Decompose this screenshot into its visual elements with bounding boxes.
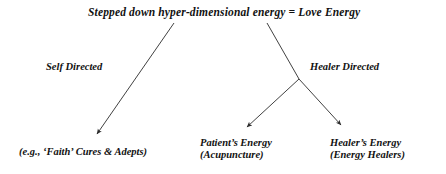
leaf-node-faith-cures: (e.g., ‘Faith’ Cures & Adepts) — [19, 146, 147, 158]
diagram-title: Stepped down hyper-dimensional energy = … — [88, 6, 360, 20]
leaf-faith-line1: (e.g., ‘Faith’ Cures & Adepts) — [19, 146, 147, 158]
energy-flow-diagram: Stepped down hyper-dimensional energy = … — [0, 0, 446, 174]
leaf-healer-line1: Healer’s Energy — [330, 137, 405, 149]
arrow-branch-to-healer — [299, 79, 341, 125]
leaf-healer-line2: (Energy Healers) — [330, 149, 405, 161]
leaf-node-patients-energy: Patient’s Energy (Acupuncture) — [200, 137, 272, 162]
arrow-title-to-faith — [97, 23, 174, 134]
leaf-patient-line2: (Acupuncture) — [200, 149, 272, 161]
leaf-patient-line1: Patient’s Energy — [200, 137, 272, 149]
branch-label-healer-directed: Healer Directed — [310, 61, 379, 73]
leaf-node-healers-energy: Healer’s Energy (Energy Healers) — [330, 137, 405, 162]
branch-label-self-directed: Self Directed — [46, 61, 102, 73]
arrow-title-to-healer-branch — [267, 23, 299, 79]
arrow-branch-to-patient — [247, 79, 299, 127]
